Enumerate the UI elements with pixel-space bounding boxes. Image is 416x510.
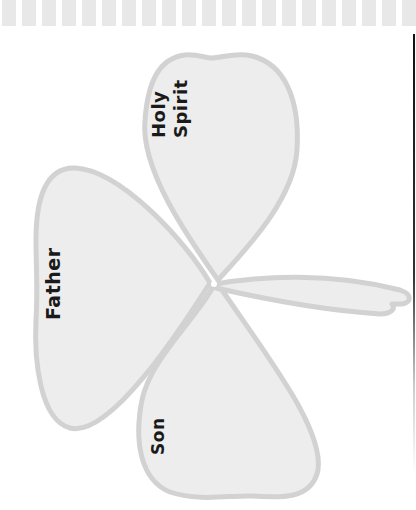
label-holy-spirit: Holy Spirit bbox=[148, 79, 192, 138]
label-holy-line1: Holy bbox=[148, 79, 170, 138]
label-holy-line2: Spirit bbox=[170, 79, 192, 138]
label-father: Father bbox=[42, 247, 64, 320]
stem bbox=[216, 277, 409, 314]
center-junction bbox=[211, 281, 217, 287]
label-son: Son bbox=[148, 417, 168, 455]
